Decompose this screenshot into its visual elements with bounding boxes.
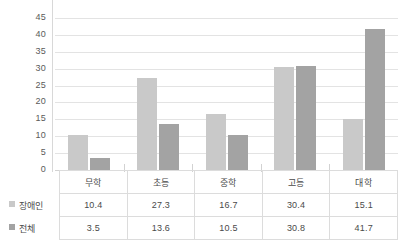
table-row: 장애인10.427.316.730.415.1 <box>5 194 398 217</box>
y-axis-line <box>52 0 53 172</box>
legend-item-전체: 전체 <box>5 217 60 240</box>
bar-전체-무학 <box>90 158 110 170</box>
y-axis: 454035302520151050 <box>0 0 52 172</box>
bar-전체-중학 <box>228 135 248 170</box>
table-cell-장애인-대학: 15.1 <box>330 194 398 217</box>
legend-label: 장애인 <box>19 199 44 212</box>
table-cell-전체-대학: 41.7 <box>330 217 398 240</box>
column-header-label: 초등 <box>153 178 169 188</box>
table-cell-전체-중학: 10.5 <box>195 217 263 240</box>
y-tick-label-40: 40 <box>36 30 46 39</box>
column-header-label: 무학 <box>85 178 101 188</box>
gridline-40 <box>55 35 398 36</box>
bar-장애인-대학 <box>343 119 363 170</box>
legend-swatch-icon <box>9 201 15 207</box>
gridline-30 <box>55 69 398 70</box>
y-tick-label-10: 10 <box>36 131 46 140</box>
legend-item-장애인: 장애인 <box>5 194 60 217</box>
bar-전체-초등 <box>159 124 179 170</box>
bar-전체-대학 <box>365 29 385 170</box>
bar-chart-figure: 454035302520151050 무학초등중학고등대학장애인10.427.3… <box>0 0 403 248</box>
table-header-row: 무학초등중학고등대학 <box>5 171 398 194</box>
table-column-header-초등: 초등 <box>127 171 195 194</box>
column-header-label: 중학 <box>220 178 236 188</box>
plot-area <box>55 0 398 172</box>
y-tick-label-15: 15 <box>36 114 46 123</box>
table-column-header-무학: 무학 <box>60 171 128 194</box>
y-tick-label-45: 45 <box>36 13 46 22</box>
gridline-35 <box>55 52 398 53</box>
table-cell-장애인-무학: 10.4 <box>60 194 128 217</box>
column-header-label: 고등 <box>288 178 304 188</box>
table-cell-전체-무학: 3.5 <box>60 217 128 240</box>
gridline-45 <box>55 18 398 19</box>
bar-장애인-무학 <box>68 135 88 170</box>
y-tick-label-30: 30 <box>36 64 46 73</box>
bar-장애인-초등 <box>137 78 157 170</box>
table-cell-전체-초등: 13.6 <box>127 217 195 240</box>
y-tick-label-25: 25 <box>36 81 46 90</box>
table-column-header-고등: 고등 <box>262 171 330 194</box>
bar-장애인-중학 <box>206 114 226 170</box>
column-header-label: 대학 <box>355 178 371 188</box>
y-tick-label-5: 5 <box>41 148 46 157</box>
data-table: 무학초등중학고등대학장애인10.427.316.730.415.1전체3.513… <box>5 170 398 240</box>
table-cell-장애인-중학: 16.7 <box>195 194 263 217</box>
table-cell-장애인-초등: 27.3 <box>127 194 195 217</box>
table-corner-blank <box>5 171 60 194</box>
table-column-header-대학: 대학 <box>330 171 398 194</box>
y-tick-label-20: 20 <box>36 97 46 106</box>
legend-swatch-icon <box>9 224 15 230</box>
gridline-25 <box>55 86 398 87</box>
table-row: 전체3.513.610.530.841.7 <box>5 217 398 240</box>
table-cell-장애인-고등: 30.4 <box>262 194 330 217</box>
table-cell-전체-고등: 30.8 <box>262 217 330 240</box>
legend-label: 전체 <box>19 222 35 235</box>
bar-장애인-고등 <box>274 67 294 170</box>
y-tick-label-35: 35 <box>36 47 46 56</box>
plot-wrapper: 454035302520151050 <box>0 0 403 172</box>
gridline-20 <box>55 102 398 103</box>
table-column-header-중학: 중학 <box>195 171 263 194</box>
bar-전체-고등 <box>296 66 316 170</box>
